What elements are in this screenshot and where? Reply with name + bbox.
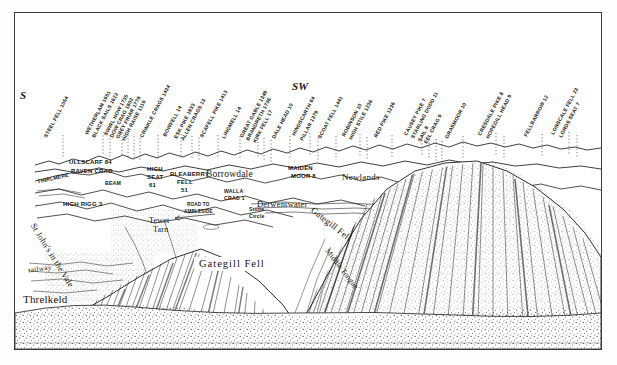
valley-label-11: MAIDEN: [288, 165, 313, 171]
valley-label-10: 51: [181, 187, 188, 193]
compass-marker-sw: SW: [292, 80, 308, 92]
panorama-artwork: [15, 13, 601, 349]
compass-marker-s: S: [20, 89, 26, 101]
valley-label-9: FELL: [177, 179, 193, 185]
road-label-1: AMBLESIDE: [184, 209, 213, 214]
valley-label-6: SEAT: [147, 174, 163, 180]
valley-label-1: RAVEN CRAG: [71, 168, 113, 174]
boxed-label-0: Gategill Fell: [194, 257, 270, 271]
road-label-0: ROAD TO: [187, 202, 210, 207]
place-label-0: Borrowdale: [206, 169, 253, 179]
valley-label-0: ULLSCARF 84: [69, 159, 112, 165]
drawing-frame: SSW STEEL FELL 1054WETHERLAM 1651BLACK S…: [14, 12, 602, 350]
panorama-page: SSW STEEL FELL 1054WETHERLAM 1651BLACK S…: [0, 0, 617, 365]
valley-label-4: HIGH RIGG 3: [63, 201, 102, 207]
valley-label-13: WALLA: [224, 188, 243, 194]
valley-label-12: MOOR 8: [291, 173, 316, 179]
place-label-1: Newlands: [342, 172, 380, 182]
valley-label-5: HIGH: [147, 166, 163, 172]
valley-label-7: 61: [149, 182, 156, 188]
place-label-4: Tarn: [153, 225, 168, 234]
place-label-5: Threlkeld: [23, 293, 68, 305]
valley-label-3: BEAM: [105, 180, 121, 186]
place-label-2: Derwentwater: [257, 199, 308, 209]
valley-label-16: Circle: [249, 213, 265, 219]
valley-label-8: BLEABERRY: [170, 171, 209, 177]
place-label-3: Tewet: [149, 216, 169, 225]
valley-label-14: CRAG 1: [224, 195, 245, 201]
